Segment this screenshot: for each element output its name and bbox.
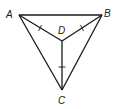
segment-bc (62, 15, 102, 90)
label-b: B (104, 8, 111, 19)
triangle-diagram: A B D C (0, 0, 117, 109)
label-c: C (58, 95, 66, 106)
vertex-labels: A B D C (5, 8, 111, 106)
label-a: A (5, 9, 13, 20)
label-d: D (58, 25, 65, 36)
